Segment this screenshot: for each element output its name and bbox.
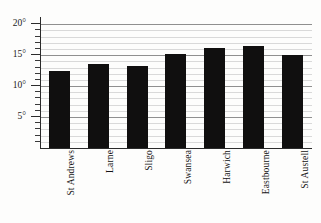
bar (127, 66, 148, 148)
y-axis-label: 15° (0, 49, 26, 59)
x-axis-tick-labels: St AndrewsLarneSligoSwanseaHarwichEastbo… (40, 150, 312, 223)
x-axis-label: Swansea (180, 150, 190, 184)
x-axis-line (40, 148, 312, 149)
bar (88, 64, 109, 148)
x-axis-label: Larne (102, 150, 112, 173)
y-axis-label: 20° (0, 18, 26, 28)
bar (282, 55, 303, 148)
bar-chart: 20°15°10°5° St AndrewsLarneSligoSwanseaH… (0, 0, 321, 223)
bar (204, 48, 225, 148)
bar (243, 46, 264, 148)
x-axis-label: Sligo (141, 150, 151, 171)
bar-series (40, 18, 312, 148)
x-axis-label: Eastbourne (258, 150, 268, 194)
x-axis-label-text: St Austell (300, 150, 310, 189)
x-axis-label: St Andrews (63, 150, 73, 196)
x-axis-label: Harwich (219, 150, 229, 184)
bar (165, 54, 186, 148)
x-axis-label-text: Eastbourne (261, 150, 271, 194)
x-axis-label-text: Larne (105, 150, 115, 173)
y-axis-label: 5° (0, 111, 26, 121)
y-axis-label: 10° (0, 80, 26, 90)
x-axis-label-text: Sligo (144, 150, 154, 171)
x-axis-label-text: Harwich (222, 150, 232, 184)
bar (49, 71, 70, 148)
x-axis-label-text: Swansea (183, 150, 193, 184)
x-axis-label: St Austell (297, 150, 307, 189)
x-axis-label-text: St Andrews (66, 150, 76, 196)
